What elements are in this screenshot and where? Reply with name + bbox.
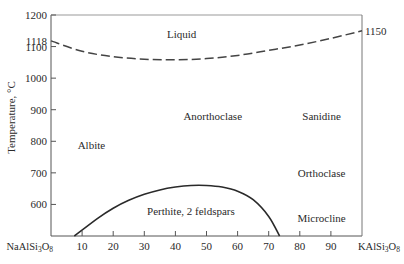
x-tick-label: 80 <box>294 240 306 252</box>
phase-diagram: 6007008009001000110012001118115010203040… <box>0 0 404 264</box>
x-tick-label: 70 <box>263 240 275 252</box>
field-label: Perthite, 2 feldspars <box>147 205 235 217</box>
field-label: Microcline <box>297 212 345 224</box>
x-label-left: NaAlSi3O8 <box>6 241 53 254</box>
x-tick-label: 90 <box>325 240 337 252</box>
plot-frame <box>51 15 362 236</box>
x-tick-label: 60 <box>232 240 244 252</box>
y-tick-label: 1000 <box>25 72 48 84</box>
axis-ticks <box>51 15 331 236</box>
field-label: Albite <box>78 139 106 151</box>
x-tick-label: 40 <box>170 240 182 252</box>
y-tick-label: 700 <box>31 167 48 179</box>
y-tick-label: 1200 <box>25 9 48 21</box>
x-tick-label: 30 <box>139 240 151 252</box>
x-tick-label: 50 <box>201 240 213 252</box>
liquidus-curve <box>51 31 362 60</box>
y-tick-label: 800 <box>31 135 48 147</box>
y-axis-title: Temperature, °C <box>5 81 17 154</box>
x-tick-label: 20 <box>108 240 120 252</box>
field-label: Liquid <box>167 28 197 40</box>
y-tick-label: 600 <box>31 198 48 210</box>
y-tick-label: 900 <box>31 104 48 116</box>
x-tick-label: 10 <box>77 240 89 252</box>
field-label: Orthoclase <box>298 167 346 179</box>
y-extra-label: 1150 <box>365 25 387 37</box>
field-label: Anorthoclase <box>183 110 242 122</box>
x-label-right: KAlSi3O8 <box>358 241 400 254</box>
y-extra-label: 1118 <box>26 35 48 47</box>
field-label: Sanidine <box>302 110 341 122</box>
